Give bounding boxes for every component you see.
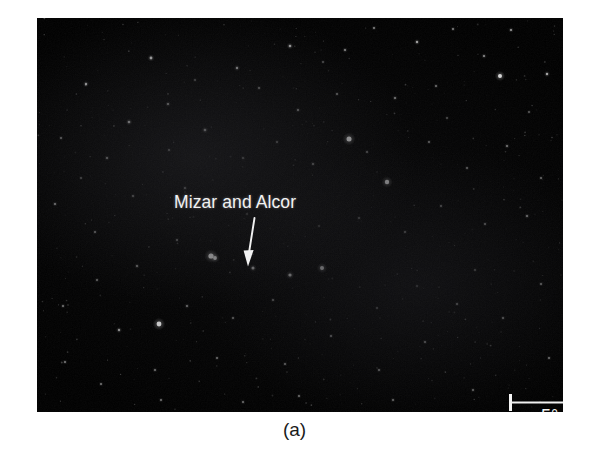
star-field-photograph: Mizar and Alcor 5° [37,18,563,412]
figure-panel: Mizar and Alcor 5° (a) [0,0,589,453]
mizar-and-alcor-label: Mizar and Alcor [174,192,296,212]
star-field-canvas [37,18,563,412]
figure-caption: (a) [0,418,589,442]
down-arrow-icon [237,214,267,272]
scale-bar-label: 5° [541,406,558,412]
